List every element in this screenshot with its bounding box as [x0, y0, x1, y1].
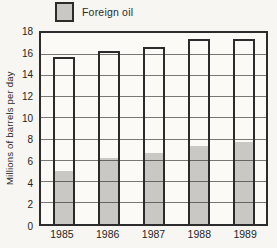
- bar-foreign-1988: [190, 146, 208, 224]
- y-tick-label-6: 6: [27, 155, 33, 166]
- y-axis-tick-labels: 181614121086420: [0, 31, 36, 226]
- x-axis-labels: 19851986198719881989: [39, 228, 268, 244]
- bar-total-1986: [98, 51, 120, 224]
- y-tick-label-14: 14: [22, 69, 33, 80]
- legend-swatch-foreign-oil: [55, 2, 74, 22]
- bar-total-1989: [233, 39, 255, 224]
- bar-total-1985: [53, 57, 75, 224]
- plot-area: [39, 31, 268, 226]
- bars-layer: [41, 33, 266, 224]
- bar-foreign-1986: [100, 158, 118, 224]
- x-label-1987: 1987: [131, 228, 177, 240]
- y-tick-label-4: 4: [27, 177, 33, 188]
- bar-foreign-1989: [235, 142, 253, 224]
- bar-foreign-1985: [55, 171, 73, 224]
- legend: Foreign oil: [55, 1, 133, 22]
- x-label-1986: 1986: [85, 228, 131, 240]
- bar-total-1988: [188, 39, 210, 224]
- y-tick-label-8: 8: [27, 134, 33, 145]
- scanned-bar-chart: Foreign oil Millions of barrels per day …: [0, 0, 277, 248]
- bar-total-1987: [143, 47, 165, 224]
- x-label-1985: 1985: [39, 228, 85, 240]
- y-tick-label-18: 18: [22, 26, 33, 37]
- y-tick-label-2: 2: [27, 199, 33, 210]
- y-tick-label-10: 10: [22, 112, 33, 123]
- y-tick-label-12: 12: [22, 90, 33, 101]
- legend-label: Foreign oil: [82, 6, 133, 18]
- y-tick-label-0: 0: [27, 221, 33, 232]
- y-tick-label-16: 16: [22, 47, 33, 58]
- x-label-1988: 1988: [176, 228, 222, 240]
- x-label-1989: 1989: [222, 228, 268, 240]
- bar-foreign-1987: [145, 153, 163, 224]
